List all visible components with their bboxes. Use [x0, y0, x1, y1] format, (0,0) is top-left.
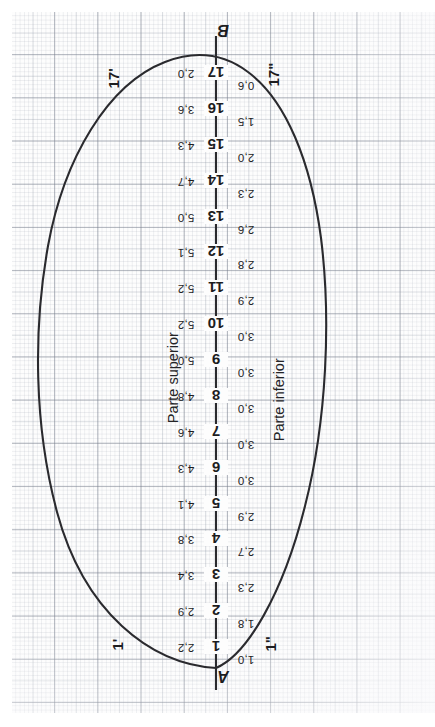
- station-number-12: 12: [204, 244, 228, 259]
- offset-lower-station-7: 3,0: [232, 438, 260, 450]
- station-number-6: 6: [204, 460, 228, 475]
- station-number-4: 4: [204, 531, 228, 546]
- offset-lower-station-10: 3,0: [232, 330, 260, 342]
- offset-upper-station-4: 3,8: [172, 533, 200, 545]
- offset-upper-station-6: 4,3: [172, 462, 200, 474]
- station-number-7: 7: [204, 424, 228, 439]
- station-number-3: 3: [204, 567, 228, 582]
- offset-lower-station-6: 3,0: [232, 474, 260, 486]
- offset-lower-station-5: 2,9: [232, 510, 260, 522]
- station-number-13: 13: [204, 209, 228, 224]
- station-number-1: 1: [204, 639, 228, 654]
- side-label-lower: Parte inferior: [272, 345, 287, 441]
- offset-lower-station-14: 2,3: [232, 187, 260, 199]
- station-number-16: 16: [204, 101, 228, 116]
- offset-upper-station-15: 4,3: [172, 139, 200, 151]
- offset-upper-station-7: 4,6: [172, 426, 200, 438]
- drawing-stage: A B 17' 17" 1' 1" Parte superior Parte i…: [0, 0, 435, 727]
- offset-upper-station-13: 5,0: [172, 211, 200, 223]
- offset-lower-station-9: 3,0: [232, 366, 260, 378]
- station-number-10: 10: [204, 316, 228, 331]
- side-label-upper: Parte superior: [166, 323, 181, 423]
- offset-lower-station-4: 2,7: [232, 545, 260, 557]
- station-number-15: 15: [204, 137, 228, 152]
- station-number-14: 14: [204, 173, 228, 188]
- offset-upper-station-10: 5,2: [172, 318, 200, 330]
- offset-upper-station-17: 2,0: [172, 67, 200, 79]
- station-number-17: 17: [204, 65, 228, 80]
- corner-label-17-double-prime: 17": [266, 53, 281, 87]
- offset-upper-station-2: 2,9: [172, 605, 200, 617]
- offset-lower-station-15: 2,0: [232, 151, 260, 163]
- corner-label-1-double-prime: 1": [263, 624, 278, 652]
- offset-lower-station-17: 0,6: [232, 79, 260, 91]
- corner-label-17-prime: 17': [106, 55, 121, 89]
- offset-lower-station-13: 2,6: [232, 223, 260, 235]
- offset-upper-station-16: 3,6: [172, 103, 200, 115]
- station-number-11: 11: [204, 280, 228, 295]
- offset-lower-station-1: 1,0: [232, 653, 260, 665]
- offset-upper-station-11: 5,2: [172, 282, 200, 294]
- offset-lower-station-3: 2,3: [232, 581, 260, 593]
- offset-upper-station-1: 2,2: [172, 641, 200, 653]
- offset-upper-station-12: 5,1: [172, 246, 200, 258]
- offset-upper-station-5: 4,1: [172, 498, 200, 510]
- endpoint-label-a: A: [203, 668, 229, 684]
- offset-upper-station-9: 5,0: [172, 354, 200, 366]
- station-number-5: 5: [204, 496, 228, 511]
- corner-label-1-prime: 1': [110, 625, 125, 651]
- offset-upper-station-3: 3,4: [172, 569, 200, 581]
- offset-lower-station-12: 2,8: [232, 258, 260, 270]
- offset-lower-station-11: 2,9: [232, 294, 260, 306]
- station-number-8: 8: [204, 388, 228, 403]
- offset-lower-station-16: 1,5: [232, 115, 260, 127]
- offset-upper-station-8: 4,8: [172, 390, 200, 402]
- offset-lower-station-8: 3,0: [232, 402, 260, 414]
- endpoint-label-b: B: [203, 22, 229, 38]
- offset-upper-station-14: 4,7: [172, 175, 200, 187]
- station-number-2: 2: [204, 603, 228, 618]
- offset-lower-station-2: 1,8: [232, 617, 260, 629]
- station-number-9: 9: [204, 352, 228, 367]
